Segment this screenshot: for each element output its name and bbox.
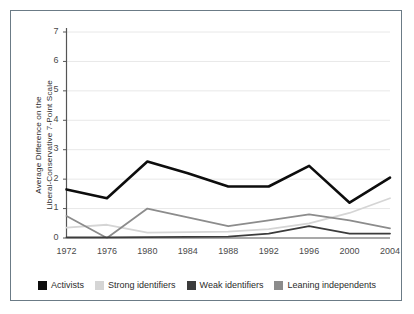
x-tick-label: 1980 [125,246,169,256]
x-tick-label: 1996 [287,246,331,256]
legend-item[interactable]: Weak identifiers [187,280,264,290]
x-tick-label: 2000 [328,246,372,256]
legend-label: Activists [51,280,84,290]
y-tick-label: 6 [41,55,59,65]
x-tick-label: 1988 [206,246,250,256]
y-tick-label: 5 [41,84,59,94]
legend-label: Strong identifiers [108,280,176,290]
legend-label: Weak identifiers [200,280,264,290]
legend-swatch-icon [38,281,47,290]
y-tick-label: 7 [41,26,59,36]
x-tick-label: 1992 [247,246,291,256]
y-tick-label: 4 [41,114,59,124]
legend-item[interactable]: Leaning independents [274,280,376,290]
chart-figure: Average Difference on the Liberal-Conser… [0,0,414,314]
legend-item[interactable]: Strong identifiers [95,280,176,290]
legend-label: Leaning independents [287,280,376,290]
legend-swatch-icon [274,281,283,290]
x-tick-label: 2004 [368,246,412,256]
series-line-strong-identifiers [67,198,391,232]
legend-item[interactable]: Activists [38,280,84,290]
chart-legend: ActivistsStrong identifiersWeak identifi… [24,276,390,294]
legend-swatch-icon [187,281,196,290]
series-line-leaning-independents [67,209,391,238]
legend-swatch-icon [95,281,104,290]
y-tick-label: 2 [41,173,59,183]
y-tick-label: 0 [41,232,59,242]
x-tick-label: 1972 [45,246,89,256]
gridlines [67,32,391,209]
series-line-activists [67,161,391,202]
legend-divider [24,268,388,269]
plot-area [0,0,414,314]
axes [67,28,391,238]
line-chart-svg [0,0,414,314]
x-tick-label: 1976 [85,246,129,256]
y-tick-label: 1 [41,202,59,212]
y-tick-label: 3 [41,143,59,153]
data-series-group [67,161,391,238]
x-tick-label: 1984 [166,246,210,256]
